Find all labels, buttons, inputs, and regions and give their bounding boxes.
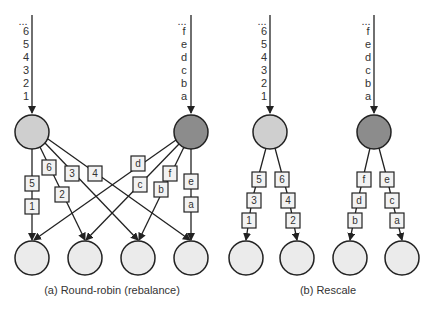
- svg-text:e: e: [188, 176, 194, 187]
- stream-item: a: [365, 90, 372, 102]
- source-node-dark: [357, 115, 391, 149]
- record-box: 5: [25, 176, 39, 191]
- stream-item: 1: [261, 90, 267, 102]
- svg-text:b: b: [158, 184, 164, 195]
- record-box: 4: [88, 166, 102, 181]
- stream-item: 4: [23, 51, 29, 63]
- sink-node: [280, 241, 314, 275]
- sink-node: [174, 241, 208, 275]
- stream-item: 6: [23, 25, 29, 37]
- record-box: 5: [252, 172, 266, 187]
- sink-node: [15, 241, 49, 275]
- stream-item: d: [181, 51, 187, 63]
- record-box: e: [184, 174, 198, 189]
- stream-item: d: [365, 51, 371, 63]
- svg-text:e: e: [384, 174, 390, 185]
- svg-text:d: d: [356, 195, 362, 206]
- stream-item: 5: [23, 38, 29, 50]
- sink-node: [68, 241, 102, 275]
- record-box: 3: [65, 166, 79, 181]
- svg-text:3: 3: [69, 168, 75, 179]
- stream-item: e: [365, 38, 371, 50]
- stream-item: 6: [261, 25, 267, 37]
- svg-text:4: 4: [285, 195, 291, 206]
- svg-text:c: c: [390, 195, 395, 206]
- svg-text:f: f: [363, 174, 366, 185]
- caption-round-robin: (a) Round-robin (rebalance): [44, 284, 180, 296]
- record-box: b: [154, 182, 168, 197]
- record-box: e: [380, 172, 394, 187]
- sink-node: [229, 241, 263, 275]
- sink-node: [333, 241, 367, 275]
- record-box: 1: [25, 199, 39, 214]
- stream-item: 4: [261, 51, 267, 63]
- stream-item: b: [365, 77, 371, 89]
- record-box: 4: [281, 193, 295, 208]
- record-box: 3: [247, 193, 261, 208]
- input-stream-numbers: ... 6 5 4 3 2 1: [257, 15, 270, 113]
- record-box: c: [385, 193, 399, 208]
- stream-item: c: [181, 64, 187, 76]
- record-box: d: [352, 193, 366, 208]
- partitioning-diagram: ... 6 5 4 3 2 1 ... f e d c b a 5: [0, 0, 436, 309]
- svg-text:6: 6: [46, 162, 52, 173]
- stream-item: e: [181, 38, 187, 50]
- record-box: 2: [286, 213, 300, 228]
- svg-text:5: 5: [256, 174, 262, 185]
- svg-text:f: f: [169, 168, 172, 179]
- sink-node: [121, 241, 155, 275]
- panel-round-robin: ... 6 5 4 3 2 1 ... f e d c b a 5: [15, 15, 208, 296]
- svg-text:a: a: [394, 215, 400, 226]
- svg-text:b: b: [352, 215, 358, 226]
- stream-item: 1: [23, 90, 29, 102]
- svg-text:6: 6: [279, 174, 285, 185]
- svg-text:d: d: [135, 158, 141, 169]
- stream-item: a: [181, 90, 188, 102]
- record-box: a: [184, 197, 198, 212]
- stream-item: 2: [23, 77, 29, 89]
- svg-text:c: c: [138, 179, 143, 190]
- record-box: d: [131, 156, 145, 171]
- record-box: f: [163, 166, 177, 181]
- record-box: 6: [275, 172, 289, 187]
- record-box: b: [348, 213, 362, 228]
- panel-rescale: ... 6 5 4 3 2 1 ... f e d c b a 5 3 1 6 …: [229, 15, 419, 296]
- stream-item: 3: [23, 64, 29, 76]
- sink-node: [385, 241, 419, 275]
- svg-text:a: a: [188, 199, 194, 210]
- stream-item: b: [181, 77, 187, 89]
- svg-text:1: 1: [246, 215, 252, 226]
- source-node-light: [253, 115, 287, 149]
- record-box: 2: [55, 187, 69, 202]
- input-stream-letters: ... f e d c b a: [361, 15, 374, 113]
- stream-item: 2: [261, 77, 267, 89]
- svg-text:4: 4: [92, 168, 98, 179]
- source-node-dark: [174, 115, 208, 149]
- record-box: 6: [42, 160, 56, 175]
- stream-item: 5: [261, 38, 267, 50]
- stream-item: c: [365, 64, 371, 76]
- svg-text:1: 1: [29, 201, 35, 212]
- svg-text:2: 2: [59, 189, 65, 200]
- svg-text:2: 2: [290, 215, 296, 226]
- input-stream-letters: ... f e d c b a: [177, 15, 191, 113]
- svg-text:3: 3: [251, 195, 257, 206]
- source-node-light: [15, 115, 49, 149]
- stream-item: 3: [261, 64, 267, 76]
- record-box: 1: [242, 213, 256, 228]
- caption-rescale: (b) Rescale: [300, 284, 356, 296]
- input-stream-numbers: ... 6 5 4 3 2 1: [18, 15, 32, 113]
- record-box: f: [357, 172, 371, 187]
- record-box: c: [133, 177, 147, 192]
- svg-text:5: 5: [29, 178, 35, 189]
- record-box: a: [390, 213, 404, 228]
